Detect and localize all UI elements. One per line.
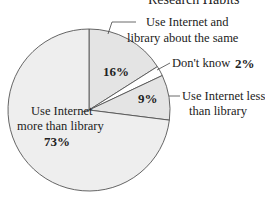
pct-same: 16%	[103, 64, 129, 80]
leader-dontknow	[157, 63, 170, 70]
pct-dontknow: 2%	[235, 56, 255, 72]
label-same-line2: library about the same	[127, 31, 238, 45]
label-more-line1: Use Internet	[31, 104, 92, 118]
label-less-line2: than library	[189, 104, 247, 118]
label-less-line1: Use Internet less	[182, 89, 265, 103]
label-dontknow: Don't know	[172, 56, 230, 70]
label-same-line1: Use Internet and	[146, 15, 229, 29]
label-more-line2: more than library	[17, 119, 104, 133]
chart-title: Research Habits	[148, 0, 239, 8]
pct-less: 9%	[138, 91, 158, 107]
pct-more: 73%	[44, 134, 70, 150]
